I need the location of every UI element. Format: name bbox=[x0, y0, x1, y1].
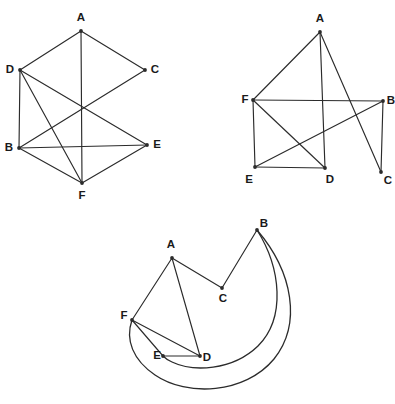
edge-D-B bbox=[19, 70, 20, 148]
edge-A-F bbox=[132, 258, 172, 320]
vertex-label-A: A bbox=[316, 12, 324, 24]
vertex-C-dot bbox=[220, 286, 224, 290]
vertex-F-dot bbox=[80, 181, 84, 185]
vertex-E-dot bbox=[145, 143, 149, 147]
edge-E-B bbox=[255, 101, 383, 167]
graph-1: A B C D E F bbox=[5, 11, 161, 201]
graph-1-edges bbox=[19, 31, 147, 183]
vertex-D-dot bbox=[323, 166, 327, 170]
edge-B-E bbox=[19, 145, 147, 148]
graph-2: A B C D E F bbox=[241, 12, 395, 186]
vertex-A-dot bbox=[318, 30, 322, 34]
edge-C-B bbox=[222, 230, 257, 288]
vertex-label-E: E bbox=[153, 138, 161, 150]
vertex-label-D: D bbox=[203, 351, 211, 363]
edge-F-D bbox=[132, 320, 200, 356]
vertex-label-C: C bbox=[384, 174, 392, 186]
edge-A-F bbox=[253, 32, 320, 100]
vertex-C-dot bbox=[143, 68, 147, 72]
vertex-A-dot bbox=[170, 256, 174, 260]
edge-A-D bbox=[20, 31, 81, 70]
vertex-label-F: F bbox=[241, 93, 248, 105]
vertex-label-F: F bbox=[120, 309, 127, 321]
vertex-E-dot bbox=[253, 165, 257, 169]
edge-A-C bbox=[81, 31, 145, 70]
vertex-B-dot bbox=[381, 99, 385, 103]
vertex-C-dot bbox=[379, 170, 383, 174]
vertex-B-dot bbox=[255, 228, 259, 232]
vertex-label-E: E bbox=[245, 173, 253, 185]
vertex-F-dot bbox=[251, 98, 255, 102]
edge-B-C bbox=[381, 101, 383, 172]
edge-A-C bbox=[320, 32, 381, 172]
vertex-D-dot bbox=[18, 68, 22, 72]
edge-E-F bbox=[82, 145, 147, 183]
graph-3-labels: A B C D E F bbox=[120, 217, 268, 363]
vertex-label-D: D bbox=[6, 63, 14, 75]
edge-F-E bbox=[253, 100, 255, 167]
edge-F-D bbox=[253, 100, 325, 168]
vertex-B-dot bbox=[17, 146, 21, 150]
curved-edge-B-F bbox=[130, 230, 291, 389]
vertex-E-dot bbox=[161, 354, 165, 358]
vertex-label-C: C bbox=[151, 63, 159, 75]
edge-F-B bbox=[253, 100, 383, 101]
vertex-label-B: B bbox=[260, 217, 268, 229]
figure-root: A B C D E F bbox=[0, 0, 395, 404]
vertex-label-A: A bbox=[77, 11, 85, 23]
graph-3-edges bbox=[132, 230, 257, 356]
edge-E-D bbox=[255, 167, 325, 168]
vertex-label-A: A bbox=[167, 238, 175, 250]
graph-3: A B C D E F bbox=[120, 217, 290, 389]
vertex-A-dot bbox=[79, 29, 83, 33]
graph-2-vertices bbox=[251, 30, 385, 174]
vertex-label-E: E bbox=[153, 349, 161, 361]
graph-3-curved-edges bbox=[130, 230, 291, 389]
vertex-label-D: D bbox=[326, 173, 334, 185]
graph-2-labels: A B C D E F bbox=[241, 12, 395, 186]
graph-2-edges bbox=[253, 32, 383, 172]
vertex-label-C: C bbox=[219, 292, 227, 304]
graph-1-labels: A B C D E F bbox=[5, 11, 161, 201]
vertex-label-B: B bbox=[5, 141, 13, 153]
vertex-F-dot bbox=[130, 318, 134, 322]
graph-figure-canvas: A B C D E F bbox=[0, 0, 395, 404]
vertex-label-F: F bbox=[78, 189, 85, 201]
vertex-label-B: B bbox=[387, 94, 395, 106]
vertex-D-dot bbox=[198, 354, 202, 358]
